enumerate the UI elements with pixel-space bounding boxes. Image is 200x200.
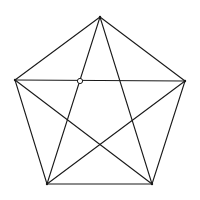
vertex-right xyxy=(184,80,186,82)
vertex-bottom-left xyxy=(46,183,48,185)
edge-top-bottom-right xyxy=(100,17,152,184)
edge-right-bottom-right xyxy=(152,81,185,184)
edge-left-top xyxy=(15,17,100,80)
edge-top-right xyxy=(100,17,185,81)
vertex-top xyxy=(99,16,101,18)
diagram-canvas xyxy=(0,0,200,200)
edge-left-bottom-right xyxy=(15,80,152,184)
pentagon-star-diagram xyxy=(0,0,200,200)
open-circle-marker xyxy=(77,78,82,83)
edge-left-right xyxy=(15,80,185,81)
edges-group xyxy=(15,17,185,184)
edge-top-bottom-left xyxy=(47,17,100,184)
vertex-bottom-right xyxy=(151,183,153,185)
edge-bottom-left-left xyxy=(15,80,47,184)
edge-right-bottom-left xyxy=(47,81,185,184)
vertex-left xyxy=(14,79,16,81)
markers-group xyxy=(77,78,82,83)
